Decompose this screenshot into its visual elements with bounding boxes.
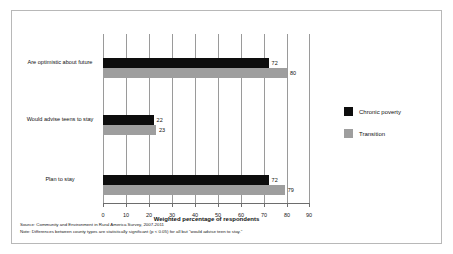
bar-chronic-poverty [103,58,269,68]
bar-value-label: 79 [288,185,294,195]
x-tick [195,204,196,207]
bar-value-label: 23 [159,125,165,135]
bar-chronic-poverty [103,115,154,125]
footnotes: Source: Community and Environment in Rur… [20,221,435,235]
category-label: Are optimistic about future [22,59,98,67]
source-note: Source: Community and Environment in Rur… [20,221,435,228]
bar-value-label: 80 [290,68,296,78]
chart-frame: Are optimistic about future Would advise… [11,10,442,244]
bar-chronic-poverty [103,175,269,185]
legend-swatch-icon [344,107,353,116]
bar-transition [103,68,287,78]
legend-label: Chronic poverty [359,109,401,115]
plot-area: 72 80 22 23 72 79 0 [103,34,310,204]
x-tick [287,204,288,207]
legend-item-chronic-poverty: Chronic poverty [344,107,434,116]
gridline [309,34,310,204]
chart-figure: Are optimistic about future Would advise… [0,0,453,254]
legend-item-transition: Transition [344,129,434,138]
bar-value-label: 22 [157,115,163,125]
x-tick [172,204,173,207]
x-tick [126,204,127,207]
category-label: Would advise teens to stay [22,116,98,124]
x-tick [103,204,104,207]
x-tick [218,204,219,207]
bar-transition [103,185,285,195]
significance-note: Note: Differences between county types a… [20,228,435,235]
x-axis-line [103,203,310,204]
x-tick [149,204,150,207]
bar-transition [103,125,156,135]
chart-legend: Chronic poverty Transition [344,107,434,151]
legend-swatch-icon [344,129,353,138]
bar-value-label: 72 [272,58,278,68]
x-tick [241,204,242,207]
category-axis-labels: Are optimistic about future Would advise… [22,34,98,204]
gridline [287,34,288,204]
bar-value-label: 72 [272,175,278,185]
legend-label: Transition [359,131,385,137]
category-label: Plan to stay [22,176,98,184]
x-tick [309,204,310,207]
x-tick [264,204,265,207]
